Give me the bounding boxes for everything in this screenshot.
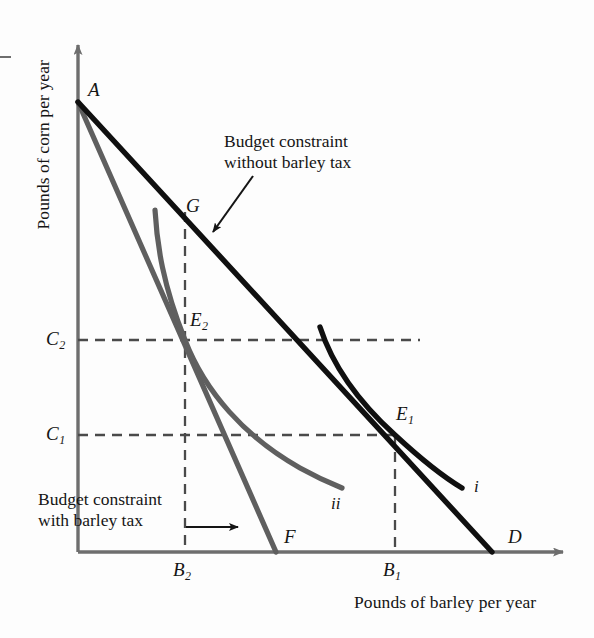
callout-line-no-tax [213,176,253,232]
point-label-e1-sub: 1 [408,413,414,427]
y-tick-label-c2-sub: 2 [59,338,65,352]
point-label-e2-sub: 2 [202,319,208,333]
point-label-f: F [284,527,296,546]
x-tick-label-b2: B2 [173,560,191,579]
y-axis-title: Pounds of corn per year [35,40,53,250]
point-label-g: G [186,196,200,215]
indifference-curve-i [320,327,462,488]
y-tick-label-c1: C1 [46,424,65,443]
point-label-e1-base: E [396,403,408,424]
annotation-with-barley-tax-line1: Budget constraint [38,489,162,510]
point-label-a: A [88,80,100,99]
figure-root: Pounds of corn per year Pounds of barley… [0,0,594,638]
point-label-e2: E2 [190,310,208,329]
y-tick-label-c2: C2 [46,329,65,348]
x-tick-label-b1-sub: 1 [395,569,401,583]
indifference-curve-ii [155,210,342,488]
curve-label-i: i [474,478,479,495]
y-tick-label-c1-base: C [46,423,59,444]
x-axis-title: Pounds of barley per year [354,594,536,612]
annotation-without-barley-tax-line1: Budget constraint [224,131,351,152]
y-tick-label-c2-base: C [46,328,59,349]
x-tick-label-b1-base: B [383,559,395,580]
annotation-without-barley-tax-line2: without barley tax [224,152,351,173]
curve-label-ii: ii [331,495,340,512]
x-tick-label-b2-sub: 2 [185,569,191,583]
x-tick-label-b1: B1 [383,560,401,579]
annotation-with-barley-tax-line2: with barley tax [38,510,162,531]
annotation-with-barley-tax: Budget constraint with barley tax [38,489,162,532]
point-label-e1: E1 [396,404,414,423]
annotation-without-barley-tax: Budget constraint without barley tax [224,131,351,174]
y-tick-label-c1-sub: 1 [59,433,65,447]
point-label-d: D [508,527,522,546]
point-label-e2-base: E [190,309,202,330]
x-tick-label-b2-base: B [173,559,185,580]
